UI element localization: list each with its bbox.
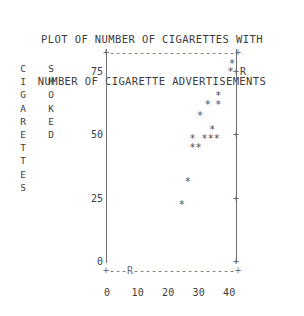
title-line-1: PLOT OF NUMBER OF CIGARETTES WITH	[0, 32, 304, 46]
data-point: *	[213, 134, 220, 144]
y-axis-label-cigarettes-char: C	[16, 62, 30, 75]
y-tick-label: 0	[97, 257, 103, 267]
y-axis-label-smoked-char: D	[44, 128, 58, 141]
right-axis-r-label: R	[240, 67, 246, 77]
y-tick-label: 25	[91, 194, 103, 204]
y-axis-label-smoked-char: S	[44, 62, 58, 75]
x-tick-label: 10	[132, 287, 144, 299]
y-tick-label: 75	[91, 67, 103, 77]
plot-area: ***************	[107, 49, 229, 262]
x-tick-label: 20	[162, 287, 174, 299]
plot-page: PLOT OF NUMBER OF CIGARETTES WITH NUMBER…	[0, 0, 304, 316]
y-axis-label-cigarettes-char: R	[16, 115, 30, 128]
data-point: *	[227, 67, 234, 77]
y-axis-label-smoked-char: O	[44, 88, 58, 101]
right-axis-tick: +	[233, 130, 239, 140]
x-tick-label: 40	[223, 287, 235, 299]
y-axis-label-smoked-char: E	[44, 115, 58, 128]
right-axis-tick: +	[233, 194, 239, 204]
x-tick-label-group: 010203040	[99, 287, 249, 299]
data-point: *	[178, 200, 185, 210]
data-point: *	[184, 177, 191, 187]
data-point: *	[204, 100, 211, 110]
y-axis-label-cigarettes-char: E	[16, 168, 30, 181]
y-axis-label-smoked-char: K	[44, 102, 58, 115]
data-point: *	[197, 111, 204, 121]
data-point: *	[215, 100, 222, 110]
rule-corner-marker: +	[235, 48, 241, 57]
x-tick-label: 0	[104, 287, 110, 299]
y-axis-label-cigarettes-char: G	[16, 88, 30, 101]
rule-corner-marker: +	[235, 266, 241, 276]
x-tick-label: 30	[193, 287, 205, 299]
y-axis-label-cigarettes-char: I	[16, 75, 30, 88]
y-tick-label-group: 0255075	[72, 49, 103, 263]
y-axis-label-smoked: SMOKED	[44, 62, 58, 141]
y-axis-right-line	[236, 49, 237, 263]
bottom-dashed-rule: +---R-----------------+	[103, 266, 241, 276]
y-axis-label-cigarettes-char: A	[16, 102, 30, 115]
y-axis-label-smoked-char: M	[44, 75, 58, 88]
y-axis-label-cigarettes-char: T	[16, 154, 30, 167]
right-axis-tick: +	[233, 257, 239, 267]
y-tick-label: 50	[91, 130, 103, 140]
y-axis-label-cigarettes-char: E	[16, 128, 30, 141]
y-axis-label-cigarettes-char: T	[16, 141, 30, 154]
y-axis-label-cigarettes-char: S	[16, 181, 30, 194]
data-point: *	[195, 143, 202, 153]
y-axis-label-cigarettes: CIGARETTES	[16, 62, 30, 194]
